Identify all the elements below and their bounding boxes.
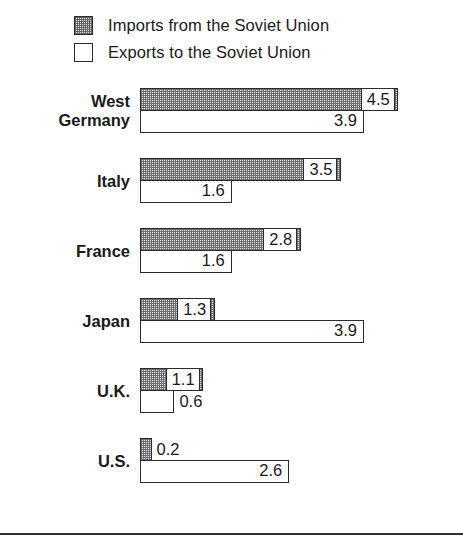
bar-value-label: 1.6 [197, 180, 231, 202]
category-label-line: Italy [97, 172, 130, 191]
legend-item-label: Imports from the Soviet Union [108, 16, 329, 35]
imports-bar: 0.2 [140, 438, 152, 461]
bar-value-label: 0.6 [179, 393, 202, 410]
bar-pair: 4.53.9 [140, 88, 398, 133]
bar-value-label: 1.1 [166, 368, 200, 392]
category-label: Japan [10, 298, 130, 344]
bar-pair: 3.51.6 [140, 158, 341, 203]
shaded-square-icon [74, 16, 93, 35]
category-label: WestGermany [10, 88, 130, 134]
category-label-line: Japan [82, 312, 130, 331]
imports-bar: 1.1 [140, 368, 203, 391]
bar-value-label: 2.6 [254, 460, 288, 482]
bar-pair: 1.33.9 [140, 298, 364, 343]
exports-bar: 0.6 [140, 390, 174, 413]
bar-value-label: 0.2 [157, 441, 180, 458]
bar-pair: 1.10.6 [140, 368, 203, 413]
imports-bar: 2.8 [140, 228, 301, 251]
bar-pair: 0.22.6 [140, 438, 289, 483]
bar-pair: 2.81.6 [140, 228, 301, 273]
category-label: U.K. [10, 368, 130, 414]
category-label: U.S. [10, 438, 130, 484]
exports-bar: 1.6 [140, 250, 232, 273]
bar-group: U.K.1.10.6 [0, 368, 463, 414]
bar-value-label: 1.3 [177, 298, 211, 322]
bar-chart-plot-area: WestGermany4.53.9Italy3.51.6France2.81.6… [0, 88, 463, 508]
bar-group: Italy3.51.6 [0, 158, 463, 204]
category-label-line: U.S. [98, 452, 130, 471]
imports-bar: 4.5 [140, 88, 398, 111]
chart-legend: Imports from the Soviet Union Exports to… [74, 12, 329, 66]
exports-bar: 1.6 [140, 180, 232, 203]
legend-item-imports: Imports from the Soviet Union [74, 12, 329, 39]
category-label-line: Germany [58, 111, 130, 130]
category-label-line: U.K. [97, 382, 130, 401]
imports-bar: 1.3 [140, 298, 215, 321]
category-label: France [10, 228, 130, 274]
exports-bar: 3.9 [140, 110, 364, 133]
category-label-line: France [76, 242, 130, 261]
category-label-line: West [91, 92, 130, 111]
bar-group: France2.81.6 [0, 228, 463, 274]
bar-value-label: 1.6 [197, 250, 231, 272]
bar-group: U.S.0.22.6 [0, 438, 463, 484]
legend-item-label: Exports to the Soviet Union [108, 43, 311, 62]
category-label: Italy [10, 158, 130, 204]
bar-group: WestGermany4.53.9 [0, 88, 463, 134]
imports-bar: 3.5 [140, 158, 341, 181]
exports-bar: 3.9 [140, 320, 364, 343]
bar-value-label: 3.9 [329, 320, 363, 342]
bar-value-label: 3.5 [303, 158, 337, 182]
bar-value-label: 2.8 [263, 228, 297, 252]
bar-value-label: 3.9 [329, 110, 363, 132]
chart-bottom-rule [0, 533, 463, 535]
legend-item-exports: Exports to the Soviet Union [74, 39, 329, 66]
bar-value-label: 4.5 [361, 88, 395, 112]
bar-group: Japan1.33.9 [0, 298, 463, 344]
exports-bar: 2.6 [140, 460, 289, 483]
empty-square-icon [74, 43, 93, 62]
